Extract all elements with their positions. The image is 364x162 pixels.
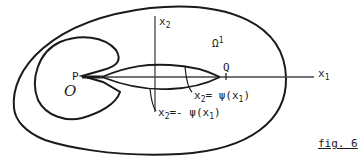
omega-base: Ω bbox=[212, 37, 219, 50]
x2-sub: 2 bbox=[166, 21, 171, 30]
uc-sub: 2 bbox=[201, 95, 206, 104]
lc-close: ) bbox=[214, 106, 221, 119]
figure-diagram bbox=[0, 0, 364, 162]
upper-curve-label: x2= ψ(x1) bbox=[194, 90, 250, 101]
upper-curve bbox=[102, 65, 220, 77]
x1-axis-label: x1 bbox=[318, 68, 329, 79]
lc-rest: =- ψ(x bbox=[169, 106, 209, 119]
region-o-label: O bbox=[64, 84, 76, 99]
x1-base: x bbox=[318, 67, 325, 80]
uc-rest: = ψ(x bbox=[205, 89, 238, 102]
lc-sub: 2 bbox=[165, 112, 170, 121]
x1-sub: 1 bbox=[325, 73, 330, 82]
figure-caption: fig. 6 bbox=[318, 138, 358, 149]
point-q-label: Q bbox=[223, 62, 230, 73]
uc-sub2: 1 bbox=[239, 95, 244, 104]
x2-base: x bbox=[159, 15, 166, 28]
lc-sub2: 1 bbox=[209, 112, 214, 121]
lc-x: x bbox=[158, 106, 165, 119]
lower-curve-label: x2=- ψ(x1) bbox=[158, 107, 221, 118]
lower-curve bbox=[102, 77, 220, 89]
omega-label: Ω1 bbox=[212, 38, 223, 49]
point-p-label: P bbox=[72, 71, 79, 82]
uc-close: ) bbox=[243, 89, 250, 102]
outer-boundary-curve bbox=[14, 7, 286, 155]
x2-axis-label: x2 bbox=[159, 16, 170, 27]
uc-x: x bbox=[194, 89, 201, 102]
omega-sup: 1 bbox=[219, 36, 224, 45]
